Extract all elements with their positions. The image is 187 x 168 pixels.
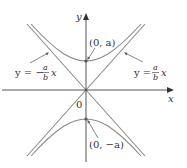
vertex-top-dot: [84, 59, 87, 62]
right-asymptote-label-num: a: [153, 63, 158, 72]
origin-label: 0: [76, 99, 82, 110]
leader-right-asymptote: [125, 53, 143, 62]
y-axis-arrow-icon: [83, 13, 89, 20]
left-asymptote-label-den: b: [43, 73, 48, 82]
origin-dot: [85, 89, 88, 92]
right-asymptote-label-prefix: y =: [133, 67, 151, 78]
right-asymptote-label-suffix: x: [161, 67, 167, 78]
hyperbola-diagram: y x 0 (0, a) (0, −a) y = − a b x y = a b…: [0, 0, 187, 168]
right-asymptote-label-den: b: [153, 73, 158, 82]
vertex-bottom-dot: [84, 117, 87, 120]
leader-bottom-vertex: [88, 121, 98, 138]
y-axis-label: y: [75, 11, 82, 22]
leader-left-asymptote: [30, 53, 48, 63]
left-asymptote-label-num: a: [43, 63, 48, 72]
left-asymptote-label-suffix: x: [51, 67, 57, 78]
x-axis-label: x: [168, 93, 174, 104]
vertex-top-label: (0, a): [89, 37, 116, 48]
left-asymptote-label-prefix: y = −: [14, 67, 44, 78]
vertex-bottom-label: (0, −a): [89, 139, 124, 150]
